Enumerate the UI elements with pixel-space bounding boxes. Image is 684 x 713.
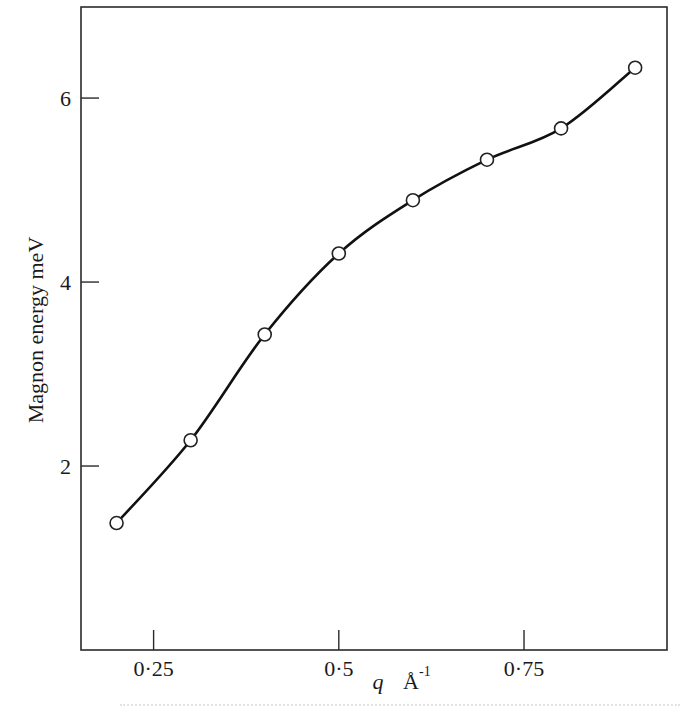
x-tick-label: 0·75 xyxy=(504,656,544,681)
data-point-marker xyxy=(258,328,271,341)
data-point-marker xyxy=(480,153,493,166)
x-axis-label: q Å -1 xyxy=(373,664,431,694)
x-tick-label: 0·25 xyxy=(133,656,173,681)
data-point-marker xyxy=(555,122,568,135)
data-markers xyxy=(110,61,642,529)
y-tick-label: 2 xyxy=(60,454,71,479)
x-axis-label-exponent: -1 xyxy=(419,664,431,679)
y-axis-label: Magnon energy meV xyxy=(23,237,48,424)
data-point-marker xyxy=(406,194,419,207)
data-point-marker xyxy=(332,247,345,260)
x-tick-label: 0·5 xyxy=(324,656,353,681)
y-tick-label: 6 xyxy=(60,86,71,111)
y-axis-ticks: 246 xyxy=(60,86,99,479)
x-axis-label-unit: Å xyxy=(403,669,419,694)
chart-canvas: 246 0·250·50·75 Magnon energy meV q Å -1 xyxy=(0,0,684,713)
data-curve xyxy=(117,68,636,523)
plot-frame xyxy=(81,7,667,650)
data-point-marker xyxy=(184,434,197,447)
caption-fragment xyxy=(120,704,680,713)
x-axis-ticks: 0·250·50·75 xyxy=(133,630,544,681)
data-point-marker xyxy=(110,517,123,530)
data-point-marker xyxy=(629,61,642,74)
y-tick-label: 4 xyxy=(60,270,71,295)
x-axis-label-var: q xyxy=(373,669,384,694)
